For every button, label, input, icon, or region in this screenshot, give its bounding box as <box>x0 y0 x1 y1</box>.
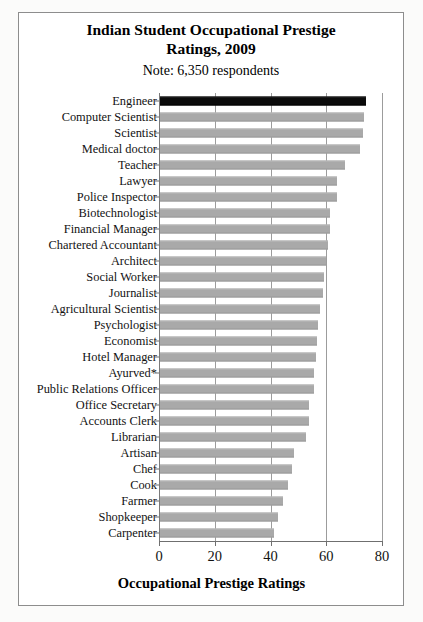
bar <box>160 385 314 394</box>
plot-area: EngineerComputer ScientistScientistMedic… <box>0 88 423 622</box>
x-tick-label: 60 <box>319 548 334 564</box>
bar-row: Economist <box>0 333 423 349</box>
category-label: Chartered Accountant <box>49 239 157 252</box>
category-label: Office Secretary <box>76 399 157 412</box>
category-tick <box>155 293 159 294</box>
bar <box>160 529 274 538</box>
category-label: Teacher <box>118 159 157 172</box>
category-label: Shopkeeper <box>99 511 158 524</box>
bar <box>160 369 314 378</box>
x-tick-label: 0 <box>155 548 162 564</box>
category-tick <box>155 533 159 534</box>
bar-row: Engineer <box>0 93 423 109</box>
x-tick-mark-40 <box>271 541 272 546</box>
bar <box>160 129 363 138</box>
bar-row: Biotechnologist <box>0 205 423 221</box>
bar <box>160 465 292 474</box>
bar-row: Agricultural Scientist <box>0 301 423 317</box>
bar <box>160 257 326 266</box>
chart-title-line-1: Indian Student Occupational Prestige <box>28 20 394 39</box>
x-tick-label: 40 <box>263 548 278 564</box>
bar-row: Accounts Clerk <box>0 413 423 429</box>
bar <box>160 225 330 234</box>
bar <box>160 401 309 410</box>
category-label: Carpenter <box>108 527 157 540</box>
category-tick <box>155 405 159 406</box>
chart-subtitle: Note: 6,350 respondents <box>28 61 394 81</box>
bar-rows-group: EngineerComputer ScientistScientistMedic… <box>0 93 423 541</box>
bar <box>160 97 366 106</box>
category-tick <box>155 197 159 198</box>
category-label: Agricultural Scientist <box>51 303 157 316</box>
bar <box>160 193 337 202</box>
category-label: Farmer <box>121 495 157 508</box>
category-label: Biotechnologist <box>79 207 157 220</box>
category-tick <box>155 501 159 502</box>
category-tick <box>155 517 159 518</box>
bar-row: Psychologist <box>0 317 423 333</box>
category-tick <box>155 389 159 390</box>
category-label: Lawyer <box>119 175 157 188</box>
category-label: Journalist <box>109 287 157 300</box>
bar-row: Chef <box>0 461 423 477</box>
bar <box>160 113 364 122</box>
category-label: Computer Scientist <box>62 111 157 124</box>
bar-row: Police Inspector <box>0 189 423 205</box>
bar <box>160 353 316 362</box>
chart-figure: Indian Student Occupational Prestige Rat… <box>0 0 423 622</box>
category-tick <box>155 181 159 182</box>
category-label: Social Worker <box>86 271 157 284</box>
category-tick <box>155 133 159 134</box>
category-tick <box>155 325 159 326</box>
chart-title-line-2: Ratings, 2009 <box>28 39 394 58</box>
bar-row: Ayurved* <box>0 365 423 381</box>
category-label: Cook <box>130 479 157 492</box>
bar-row: Lawyer <box>0 173 423 189</box>
category-tick <box>155 357 159 358</box>
bar <box>160 145 360 154</box>
category-tick <box>155 485 159 486</box>
bar-row: Hotel Manager <box>0 349 423 365</box>
x-tick-label: 20 <box>208 548 223 564</box>
bar-row: Farmer <box>0 493 423 509</box>
bar <box>160 321 318 330</box>
bar-row: Carpenter <box>0 525 423 541</box>
bar <box>160 497 283 506</box>
x-tick-mark-60 <box>326 541 327 546</box>
bar <box>160 209 330 218</box>
category-tick <box>155 309 159 310</box>
category-label: Scientist <box>114 127 157 140</box>
bar <box>160 161 345 170</box>
bar-row: Office Secretary <box>0 397 423 413</box>
category-tick <box>155 373 159 374</box>
category-label: Police Inspector <box>77 191 157 204</box>
category-tick <box>155 277 159 278</box>
category-label: Engineer <box>112 95 157 108</box>
category-label: Chef <box>133 463 157 476</box>
bar <box>160 273 324 282</box>
bar <box>160 433 306 442</box>
category-label: Psychologist <box>94 319 157 332</box>
category-label: Accounts Clerk <box>80 415 157 428</box>
category-tick <box>155 453 159 454</box>
bar <box>160 289 323 298</box>
bar <box>160 449 294 458</box>
category-tick <box>155 261 159 262</box>
bar <box>160 481 288 490</box>
category-label: Hotel Manager <box>82 351 157 364</box>
bar-row: Financial Manager <box>0 221 423 237</box>
category-label: Architect <box>111 255 157 268</box>
x-tick-mark-0 <box>159 541 160 546</box>
category-tick <box>155 165 159 166</box>
bar <box>160 305 320 314</box>
category-label: Public Relations Officer <box>37 383 157 396</box>
bar-row: Scientist <box>0 125 423 141</box>
x-tick-label: 80 <box>375 548 390 564</box>
bar-row: Librarian <box>0 429 423 445</box>
category-label: Artisan <box>121 447 157 460</box>
bar-row: Teacher <box>0 157 423 173</box>
bar <box>160 177 337 186</box>
category-tick <box>155 101 159 102</box>
category-tick <box>155 421 159 422</box>
bar-row: Public Relations Officer <box>0 381 423 397</box>
